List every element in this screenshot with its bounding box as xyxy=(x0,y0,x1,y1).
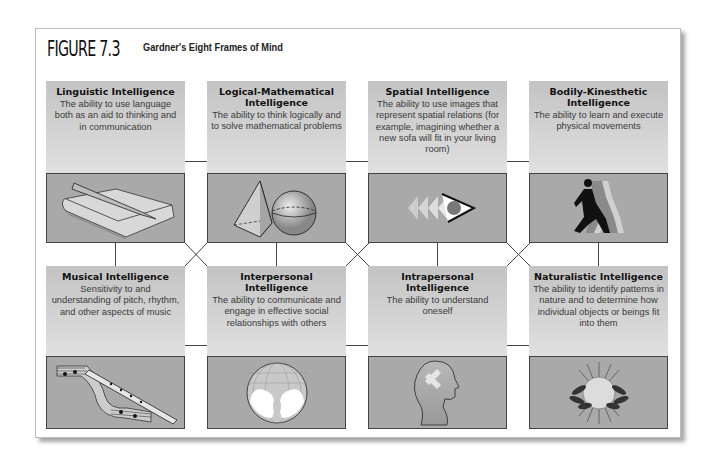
intelligence-title: Musical Intelligence xyxy=(48,271,183,282)
intelligence-description: The ability to understand oneself xyxy=(372,295,503,318)
text-panel: Intrapersonal Intelligence The ability t… xyxy=(368,266,507,356)
figure-frame: FIGURE 7.3 Gardner's Eight Frames of Min… xyxy=(35,28,681,438)
image-panel xyxy=(368,356,507,429)
intelligence-title: Spatial Intelligence xyxy=(370,86,505,97)
connector-line xyxy=(598,243,599,266)
text-panel: Logical-Mathematical Intelligence The ab… xyxy=(207,81,346,173)
intelligence-title: Bodily-Kinesthetic Intelligence xyxy=(531,86,666,108)
intelligence-description: The ability to think logically and to so… xyxy=(211,110,342,133)
image-panel xyxy=(46,356,185,429)
intelligence-title: Interpersonal Intelligence xyxy=(209,271,344,293)
connector-line xyxy=(437,243,438,266)
intelligence-description: The ability to identify patterns in natu… xyxy=(533,284,664,329)
connector-line xyxy=(276,243,277,266)
intelligence-description: The ability to communicate and engage in… xyxy=(211,295,342,329)
intelligence-description: The ability to use language both as an a… xyxy=(50,99,181,133)
intelligence-title: Naturalistic Intelligence xyxy=(531,271,666,282)
cross-connector xyxy=(346,243,369,266)
intelligence-description: Sensitivity to and understanding of pitc… xyxy=(50,284,181,318)
intelligence-title: Linguistic Intelligence xyxy=(48,86,183,97)
image-panel xyxy=(529,356,668,429)
intelligence-title: Intrapersonal Intelligence xyxy=(370,271,505,293)
connector-line xyxy=(185,345,207,346)
intelligence-title: Logical-Mathematical Intelligence xyxy=(209,86,344,108)
connector-line xyxy=(346,345,369,346)
figure-title: Gardner's Eight Frames of Mind xyxy=(143,41,283,53)
text-panel: Naturalistic Intelligence The ability to… xyxy=(529,266,668,356)
connector-line xyxy=(115,243,116,266)
figure-label: FIGURE 7.3 xyxy=(47,36,120,61)
intelligence-description: The ability to use images that represent… xyxy=(372,99,503,155)
text-panel: Musical Intelligence Sensitivity to and … xyxy=(46,266,185,356)
image-panel xyxy=(207,356,346,429)
cross-connector xyxy=(185,243,207,266)
head-profile-icon xyxy=(413,359,463,427)
text-panel: Linguistic Intelligence The ability to u… xyxy=(46,81,185,173)
text-panel: Spatial Intelligence The ability to use … xyxy=(368,81,507,173)
two-faces-globe-icon xyxy=(244,360,310,426)
cross-connector xyxy=(507,243,530,266)
image-panel xyxy=(46,173,185,243)
book-and-pencil-icon xyxy=(56,177,176,239)
image-panel xyxy=(368,173,507,243)
text-panel: Bodily-Kinesthetic Intelligence The abil… xyxy=(529,81,668,173)
pyramid-and-sphere-icon xyxy=(232,177,322,239)
text-panel: Interpersonal Intelligence The ability t… xyxy=(207,266,346,356)
runner-icon xyxy=(564,177,634,239)
image-panel xyxy=(207,173,346,243)
image-panel xyxy=(529,173,668,243)
connector-line xyxy=(507,161,530,162)
connector-line xyxy=(346,161,369,162)
eye-icon xyxy=(398,188,478,228)
connector-line xyxy=(507,345,530,346)
sun-and-leaves-icon xyxy=(559,360,639,426)
flute-and-sheet-music-icon xyxy=(51,360,181,426)
connector-line xyxy=(185,161,207,162)
intelligence-description: The ability to learn and execute physica… xyxy=(533,110,664,133)
